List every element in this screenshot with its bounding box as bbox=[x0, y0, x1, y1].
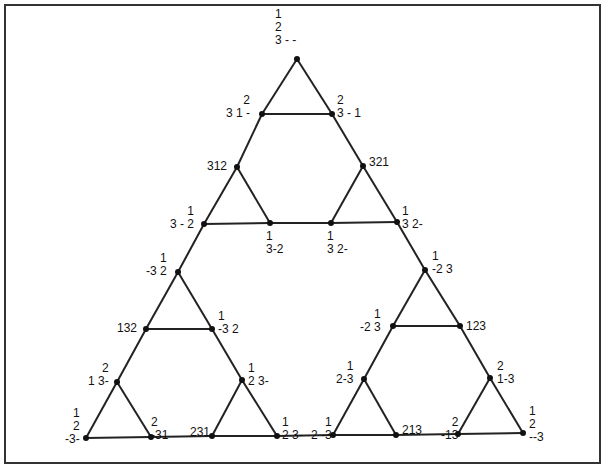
edge bbox=[393, 270, 425, 326]
node-label: 123 bbox=[466, 320, 486, 333]
node bbox=[175, 269, 181, 275]
edge bbox=[204, 167, 237, 224]
node bbox=[234, 164, 240, 170]
edge bbox=[460, 326, 490, 378]
node-label: 2 1 3- bbox=[88, 362, 109, 388]
node-label: 2 -13 bbox=[441, 416, 458, 442]
node-label: 1 2 -3- bbox=[65, 407, 80, 446]
edge bbox=[237, 114, 262, 167]
node-label: 213 bbox=[402, 424, 422, 437]
node bbox=[259, 111, 265, 117]
node-label: 1 2-3 bbox=[336, 360, 353, 386]
edge bbox=[242, 380, 277, 436]
sierpinski-graph bbox=[0, 0, 606, 468]
node bbox=[393, 432, 399, 438]
node-label: 1 3-2 bbox=[266, 230, 283, 256]
node-label: 2 3 1 - bbox=[226, 94, 250, 120]
node bbox=[487, 375, 493, 381]
node-label: 312 bbox=[207, 160, 227, 173]
node bbox=[390, 323, 396, 329]
node bbox=[422, 267, 428, 273]
node bbox=[360, 163, 366, 169]
node bbox=[83, 435, 89, 441]
node-label: 2 3 - 1 bbox=[337, 94, 361, 120]
node-label: 1 2 3 - - bbox=[275, 8, 296, 47]
edge bbox=[212, 380, 242, 436]
edge bbox=[297, 59, 332, 114]
node-label: 1 -2 3 bbox=[432, 250, 453, 276]
node bbox=[520, 430, 526, 436]
node-label: 1 2 3- bbox=[282, 416, 303, 442]
edge bbox=[333, 379, 364, 435]
edge bbox=[458, 433, 523, 434]
edge bbox=[146, 272, 178, 329]
edge bbox=[458, 378, 490, 434]
edge bbox=[331, 222, 397, 223]
edge bbox=[363, 166, 397, 222]
edge bbox=[86, 382, 117, 438]
edge bbox=[364, 379, 396, 435]
node bbox=[267, 220, 273, 226]
edge bbox=[212, 329, 242, 380]
node bbox=[143, 326, 149, 332]
node-label: 1 3 - 2 bbox=[170, 205, 194, 231]
edge bbox=[237, 167, 270, 223]
edge bbox=[117, 329, 146, 382]
edge bbox=[331, 166, 363, 223]
node bbox=[201, 221, 207, 227]
edge bbox=[117, 382, 151, 437]
node-label: 132 bbox=[117, 322, 137, 335]
node bbox=[457, 323, 463, 329]
node bbox=[209, 326, 215, 332]
edge bbox=[204, 223, 270, 224]
node bbox=[114, 379, 120, 385]
node-label: 2 -31 bbox=[151, 416, 168, 442]
node-label: 1 3 2- bbox=[327, 230, 348, 256]
node-label: 321 bbox=[369, 156, 389, 169]
node-label: 1 -3 2 bbox=[218, 310, 239, 336]
edge bbox=[490, 378, 523, 433]
edge bbox=[178, 224, 204, 272]
edge bbox=[86, 437, 151, 438]
node-label: 1 2 -3 bbox=[311, 416, 332, 442]
node-label: 1 -3 2 bbox=[146, 252, 167, 278]
edge bbox=[425, 270, 460, 326]
edge bbox=[332, 114, 363, 166]
node bbox=[328, 220, 334, 226]
node-label: 231 bbox=[190, 426, 210, 439]
node-label: 1 2 3- bbox=[248, 362, 269, 388]
node-label: 1 -2 3 bbox=[360, 308, 381, 334]
node bbox=[361, 376, 367, 382]
node bbox=[274, 433, 280, 439]
node-label: 1 2 --3 bbox=[529, 405, 544, 444]
node-label: 1 3 2- bbox=[402, 205, 423, 231]
node bbox=[394, 219, 400, 225]
edge bbox=[178, 272, 212, 329]
node-label: 2 1-3 bbox=[497, 360, 514, 386]
edge bbox=[262, 59, 297, 114]
node bbox=[294, 56, 300, 62]
node bbox=[239, 377, 245, 383]
node bbox=[329, 111, 335, 117]
